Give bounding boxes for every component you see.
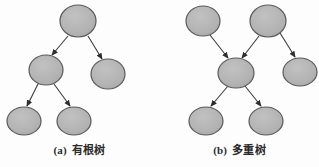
right-child-node (91, 59, 125, 89)
edge-middle-to-leafright (245, 86, 261, 106)
top-left-node (186, 6, 220, 36)
edge-topright-to-sideright (280, 33, 295, 57)
caption-label-b: 多重树 (232, 144, 266, 157)
right-leaf-node (249, 107, 283, 135)
caption-panel-b: (b) 多重树 (160, 142, 319, 159)
edge-middle-to-leafleft (211, 86, 228, 106)
middle-node (218, 58, 254, 88)
panel-rooted-tree: (a) 有根树 (0, 0, 159, 167)
top-right-node (250, 5, 286, 37)
rooted-tree-canvas (0, 0, 159, 140)
left-child-node (29, 55, 63, 85)
edge-root-to-left (52, 36, 68, 55)
multitree-nodes (186, 5, 317, 135)
edge-topleft-to-middle (210, 35, 228, 58)
edge-left-to-leaf-right (54, 84, 70, 106)
rooted-tree-nodes (7, 5, 125, 135)
caption-index-a: (a) (54, 144, 67, 156)
right-side-node (283, 58, 317, 86)
root-node (60, 5, 96, 37)
edge-root-to-right (88, 36, 102, 59)
edge-topright-to-middle (242, 36, 259, 58)
figure-root: (a) 有根树 (0, 0, 319, 167)
left-leaf-node (189, 107, 223, 135)
caption-index-b: (b) (213, 144, 227, 156)
right-leaf-node (57, 107, 91, 135)
edge-left-to-leaf-left (27, 84, 38, 106)
caption-panel-a: (a) 有根树 (0, 142, 159, 159)
multitree-canvas (160, 0, 319, 140)
caption-label-a: 有根树 (72, 144, 106, 157)
left-leaf-node (7, 107, 41, 135)
panel-multitree: (b) 多重树 (160, 0, 319, 167)
